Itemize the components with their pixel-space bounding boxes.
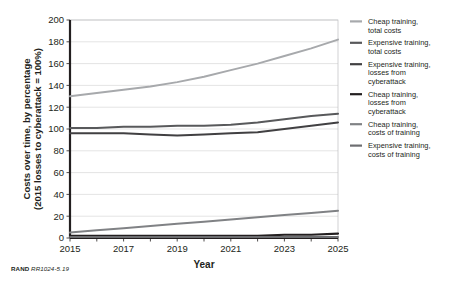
y-tick-label: 200 [48,14,64,25]
y-tick-label: 40 [53,189,64,200]
figure-source-id: RR1024-5.19 [31,265,69,272]
y-tick-label: 80 [53,145,64,156]
chart-figure: 0204060801001201401601802002015201720192… [0,0,460,285]
figure-source-note: RAND RR1024-5.19 [11,265,69,272]
y-tick-label: 160 [48,58,64,69]
legend-label-5-line-2: costs of training [368,150,420,159]
cost-over-time-line-chart: 0204060801001201401601802002015201720192… [0,0,460,285]
y-tick-label: 100 [48,123,64,134]
y-axis-title-line-1: Costs over time, by percentage [21,59,32,200]
y-axis-title-line-2: (2015 losses to cyberattack = 100%) [32,48,43,210]
x-tick-label: 2015 [59,243,80,254]
x-tick-label: 2017 [113,243,134,254]
legend-label-1-line-2: total costs [368,47,402,56]
x-tick-label: 2025 [327,243,348,254]
legend-label-2-line-3: cyberattack [368,77,406,86]
y-tick-label: 180 [48,36,64,47]
legend-label-4-line-2: costs of training [368,128,420,137]
x-tick-label: 2023 [274,243,295,254]
series-line-4 [70,211,338,233]
x-tick-label: 2021 [220,243,241,254]
series-line-1 [70,114,338,128]
x-tick-label: 2019 [167,243,188,254]
figure-source-org: RAND [11,265,29,272]
legend-label-0-line-2: total costs [368,26,402,35]
legend-label-3-line-3: cyberattack [368,107,406,116]
y-tick-label: 120 [48,102,64,113]
y-tick-label: 0 [59,232,64,243]
y-tick-label: 60 [53,167,64,178]
x-axis-title: Year [193,259,214,270]
y-tick-label: 20 [53,211,64,222]
y-tick-label: 140 [48,80,64,91]
series-line-0 [70,40,338,97]
series-line-3 [70,234,338,236]
